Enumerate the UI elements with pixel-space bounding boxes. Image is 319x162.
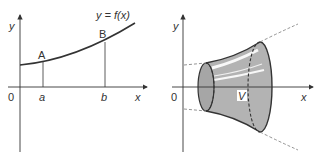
tick-b-label: b: [101, 91, 107, 103]
diagram-canvas: y 0 a b x A B y = f(x) V y 0: [0, 0, 319, 162]
curve-label: y = f(x): [95, 9, 130, 21]
right-x-axis-label: x: [300, 91, 307, 103]
left-graph: y 0 a b x A B y = f(x): [8, 9, 147, 152]
left-origin-label: 0: [8, 91, 14, 103]
lower-extension-right: [260, 132, 298, 150]
upper-extension-right: [260, 24, 298, 42]
right-origin-label: 0: [171, 91, 177, 103]
right-graph: V y 0 x: [171, 15, 313, 152]
point-a-label: A: [38, 49, 46, 61]
left-y-axis-label: y: [8, 20, 16, 32]
tick-a-label: a: [39, 91, 45, 103]
point-b-label: B: [99, 28, 106, 40]
right-y-axis-label: y: [172, 20, 180, 32]
left-x-axis-label: x: [134, 91, 141, 103]
